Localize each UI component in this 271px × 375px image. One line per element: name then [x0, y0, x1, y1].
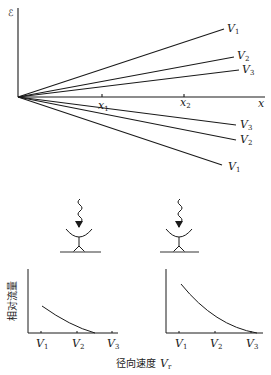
br-tick-v3: V3: [246, 337, 258, 351]
arrow-head-icon: [175, 221, 183, 228]
bottom-left-plot: [28, 269, 118, 333]
bl-tick-v1: V1: [36, 337, 48, 351]
detector-left: [60, 199, 101, 252]
label-lower-v1: V1: [228, 160, 240, 174]
flux-curve: [181, 284, 257, 333]
dish-icon: [166, 229, 192, 237]
bl-tick-v2: V2: [72, 337, 84, 351]
velocity-dispersion-diagram: ℰ x x1 x2 V1 V2 V3 V3 V2 V1 相对流量 V1 V2 V…: [0, 0, 271, 375]
dish-icon: [66, 229, 92, 237]
br-tick-v2: V2: [210, 337, 222, 351]
bl-tick-v3: V3: [107, 337, 119, 351]
line-lower-v3: [18, 97, 236, 125]
arrow-head-icon: [75, 221, 83, 228]
y-axis-label-relative-flux: 相对流量: [6, 281, 18, 321]
label-upper-v1: V1: [227, 22, 239, 36]
line-upper-v2: [18, 57, 234, 97]
x1-label: x1: [98, 99, 109, 113]
br-tick-v1: V1: [175, 337, 187, 351]
label-lower-v2: V2: [240, 133, 252, 147]
detector-right: [160, 199, 199, 252]
bottom-right-plot: [166, 269, 263, 333]
x-axis-label-radial-velocity: 径向速度Vr: [116, 357, 172, 371]
label-upper-v2: V2: [237, 49, 249, 63]
line-upper-v1: [18, 29, 224, 97]
label-lower-v3: V3: [240, 118, 252, 132]
y-axis-label: ℰ: [8, 8, 14, 18]
x-axis-label: x: [258, 97, 265, 110]
flux-curve: [42, 306, 95, 333]
label-upper-v3: V3: [242, 63, 254, 77]
x2-label: x2: [180, 96, 191, 110]
line-upper-v3: [18, 70, 239, 97]
